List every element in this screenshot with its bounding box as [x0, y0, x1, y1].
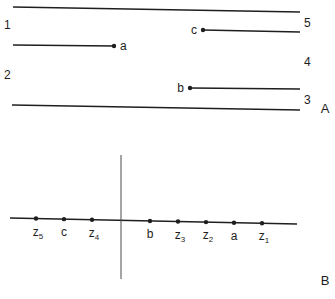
segment-b-endpoint-dot: [188, 86, 192, 90]
region-number-2: 2: [4, 68, 11, 82]
region-number-4: 4: [304, 55, 311, 69]
segment-c-label: c: [191, 23, 197, 37]
point-z1: [260, 221, 264, 225]
top-boundary-line: [13, 7, 300, 12]
diagram-canvas: acb12345 A z5cz4bz3z2az1 B: [0, 0, 335, 299]
bottom-boundary-line: [12, 105, 300, 110]
point-label-a: a: [231, 229, 238, 243]
region-number-5: 5: [304, 16, 311, 30]
point-z2: [204, 220, 208, 224]
segment-a-line: [13, 45, 114, 46]
point-label-z3: z3: [175, 228, 186, 244]
segment-a-endpoint-dot: [112, 44, 116, 48]
segment-b-line: [190, 88, 300, 89]
point-z5: [34, 216, 38, 220]
point-label-b: b: [147, 227, 154, 241]
segment-c-line: [203, 30, 300, 32]
segment-c-endpoint-dot: [201, 28, 205, 32]
point-c: [62, 217, 66, 221]
region-number-3: 3: [304, 93, 311, 107]
segment-b-label: b: [177, 81, 184, 95]
point-label-z2: z2: [203, 228, 214, 244]
panel-a: acb12345: [4, 7, 311, 110]
point-z3: [176, 219, 180, 223]
point-z4: [90, 218, 94, 222]
panel-a-label: A: [321, 101, 330, 116]
point-a: [232, 220, 236, 224]
point-label-z1: z1: [259, 229, 270, 245]
point-label-z4: z4: [89, 226, 100, 242]
panel-b-label: B: [321, 273, 330, 288]
segment-a-label: a: [120, 39, 127, 53]
point-b: [148, 219, 152, 223]
point-label-c: c: [61, 225, 67, 239]
axis-line: [10, 218, 297, 224]
panel-b: z5cz4bz3z2az1: [10, 155, 297, 279]
point-label-z5: z5: [33, 225, 44, 241]
region-number-1: 1: [4, 18, 11, 32]
